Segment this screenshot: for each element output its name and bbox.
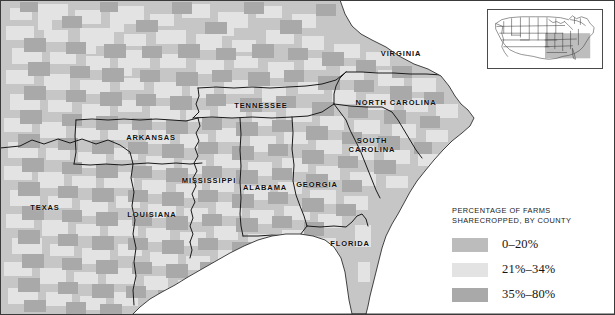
map-figure: TEXAS LOUISIANA ARKANSAS MISSISSIPPI ALA… xyxy=(0,0,615,315)
figure-frame xyxy=(0,0,615,315)
